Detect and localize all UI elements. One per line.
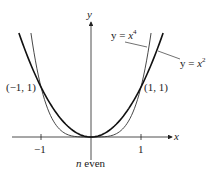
tick-label-1: 1 — [138, 144, 144, 155]
leader-x2 — [158, 51, 180, 59]
y-axis-label: y — [87, 9, 92, 20]
curve-label-x4: y = x4 — [111, 29, 137, 41]
curve-label-x2: y = x2 — [180, 57, 206, 69]
point-label-left: (−1, 1) — [6, 82, 36, 93]
point-label-right: (1, 1) — [144, 82, 168, 93]
leader-x4 — [125, 42, 147, 47]
caption: n even — [76, 158, 105, 169]
tick-label-neg1: −1 — [34, 144, 46, 155]
x-axis-label: x — [174, 131, 179, 142]
